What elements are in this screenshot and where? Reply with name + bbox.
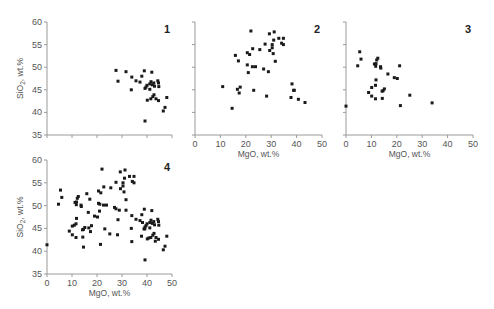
data-point [125, 209, 128, 212]
data-point [231, 107, 234, 110]
data-point [150, 219, 153, 222]
data-point [399, 104, 402, 107]
data-point [57, 203, 60, 206]
scatter-figure: 354045505560SiO2, wt.%1 01020304050MgO, … [0, 0, 494, 309]
data-point [247, 71, 250, 74]
data-point [122, 185, 125, 188]
panel-number: 4 [164, 161, 171, 173]
data-point [154, 240, 157, 243]
data-point [165, 235, 168, 238]
data-point [130, 240, 133, 243]
data-point [81, 228, 84, 231]
axes [346, 22, 473, 135]
data-point [272, 52, 275, 55]
data-point [374, 65, 377, 68]
data-point [75, 236, 78, 239]
data-point [157, 99, 160, 102]
data-point [292, 89, 295, 92]
data-point [273, 30, 276, 33]
data-point [46, 243, 49, 246]
data-point [108, 232, 111, 235]
data-point [143, 208, 146, 211]
data-point [164, 106, 167, 109]
data-point [375, 78, 378, 81]
panel-1: 354045505560SiO2, wt.%1 [15, 17, 172, 140]
data-point [271, 46, 274, 49]
data-point [125, 198, 128, 201]
y-tick-label: 45 [32, 223, 42, 233]
data-point [123, 190, 126, 193]
y-tick-label: 60 [32, 155, 42, 165]
y-tick-label: 35 [32, 130, 42, 140]
x-tick-label: 0 [44, 278, 49, 288]
data-point [356, 64, 359, 67]
x-tick-label: 20 [392, 139, 402, 149]
data-point [238, 92, 241, 95]
data-point [248, 53, 251, 56]
data-point [272, 39, 275, 42]
x-axis-label: MgO, wt.% [389, 149, 431, 159]
data-point [381, 97, 384, 100]
data-point [254, 65, 257, 68]
panel-number: 1 [164, 23, 170, 35]
x-tick-label: 10 [366, 139, 376, 149]
data-point [431, 101, 434, 104]
x-axis-label: MgO, wt.% [89, 288, 131, 298]
data-point [157, 220, 160, 223]
data-point [374, 84, 377, 87]
data-point [165, 96, 168, 99]
y-tick-label: 50 [32, 62, 42, 72]
data-point [150, 80, 153, 83]
data-point [116, 233, 119, 236]
data-point [153, 85, 156, 88]
data-point [125, 70, 128, 73]
data-point [374, 97, 377, 100]
data-point [290, 96, 293, 99]
data-point [102, 204, 105, 207]
data-point [90, 224, 93, 227]
data-point [282, 37, 285, 40]
data-point [140, 213, 143, 216]
x-tick-label: 30 [266, 139, 276, 149]
data-point [89, 230, 92, 233]
data-point [96, 216, 99, 219]
x-tick-label: 0 [192, 139, 197, 149]
data-point [99, 191, 102, 194]
data-point [236, 88, 239, 91]
data-point [398, 64, 401, 67]
data-point [80, 205, 83, 208]
data-point [152, 220, 155, 223]
x-axis-label: MgO, wt.% [238, 149, 280, 159]
data-point [370, 95, 373, 98]
data-point [221, 85, 224, 88]
data-point [144, 120, 147, 123]
data-point [88, 198, 91, 201]
panel-4: 35404550556001020304050MgO, wt.%SiO2, wt… [15, 155, 177, 298]
data-point [105, 204, 108, 207]
data-point [130, 76, 133, 79]
data-point [87, 226, 90, 229]
data-point [141, 221, 144, 224]
data-point [76, 197, 79, 200]
data-point [130, 88, 133, 91]
data-point [71, 225, 74, 228]
x-tick-label: 40 [443, 139, 453, 149]
data-point [162, 248, 165, 251]
data-point [271, 43, 274, 46]
x-tick-label: 30 [117, 278, 127, 288]
data-point [152, 82, 155, 85]
axes [195, 22, 322, 135]
data-point [139, 81, 142, 84]
data-point [82, 246, 85, 249]
x-tick-label: 40 [292, 139, 302, 149]
x-tick-label: 0 [343, 139, 348, 149]
y-tick-label: 45 [32, 85, 42, 95]
data-point [124, 169, 127, 172]
data-point [140, 235, 143, 238]
data-point [262, 68, 265, 71]
data-point [237, 59, 240, 62]
panel-number: 2 [314, 23, 320, 35]
data-point [146, 222, 149, 225]
data-point [264, 43, 267, 46]
data-point [258, 48, 261, 51]
